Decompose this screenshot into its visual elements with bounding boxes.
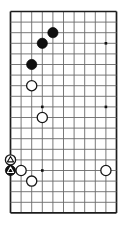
black-stone-marked[interactable] [5,165,15,175]
white-stone-center[interactable] [37,112,47,122]
white-stone-marked[interactable] [5,155,15,165]
white-stone-bottom[interactable] [27,176,37,186]
black-stone-upper[interactable] [48,28,58,38]
white-stone-icon [27,81,37,91]
black-stone-icon [37,38,47,48]
black-stone-lower[interactable] [27,59,37,69]
go-board-diagram [0,0,125,227]
black-stone-icon [48,28,58,38]
white-stone-icon [16,165,26,175]
white-stone-upper[interactable] [27,81,37,91]
star-point-middle-left [41,106,44,109]
white-stone-right[interactable] [101,165,111,175]
black-stone-middle[interactable] [37,38,47,48]
white-stone-edge[interactable] [16,165,26,175]
star-point-lower-left [41,169,44,172]
white-stone-icon [27,176,37,186]
black-stone-icon [27,59,37,69]
star-point-middle-right [105,106,108,109]
star-point-upper-right [105,42,108,45]
white-stone-icon [37,112,47,122]
white-stone-icon [101,165,111,175]
go-board-canvas[interactable] [0,0,125,227]
